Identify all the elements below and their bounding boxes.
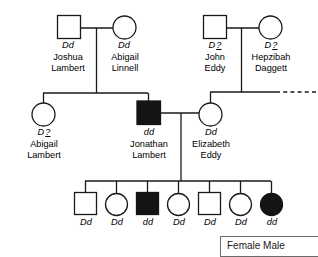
genotype-elizabeth-eddy: Dd <box>187 128 235 138</box>
genotype-hepzibah-daggett-unknown-mark: ? <box>271 40 277 50</box>
genotype-child-7: dd <box>257 218 287 228</box>
name-abigail-linnell-line2: Linnell <box>95 63 155 73</box>
symbol-abigail-lambert-female-unaffected <box>32 103 55 126</box>
symbol-child-2-female-unaffected <box>106 194 128 216</box>
symbol-john-eddy-male-unaffected <box>204 16 227 39</box>
genotype-child-5: Dd <box>195 218 225 228</box>
name-jonathan-lambert-line1: Jonathan <box>117 139 181 149</box>
legend-box: Female Male <box>220 236 318 257</box>
symbol-child-4-female-unaffected <box>168 194 190 216</box>
pedigree-chart: Dd Joshua Lambert Dd Abigail Linnell D? … <box>0 0 318 257</box>
name-elizabeth-eddy-line1: Elizabeth <box>181 139 241 149</box>
name-elizabeth-eddy-line2: Eddy <box>181 150 241 160</box>
symbol-elizabeth-eddy-female-unaffected <box>199 103 222 126</box>
genotype-jonathan-lambert: dd <box>125 128 173 138</box>
genotype-abigail-linnell: Dd <box>100 41 148 51</box>
symbol-hepzibah-daggett-female-unaffected <box>259 16 282 39</box>
symbol-abigail-linnell-female-unaffected <box>113 16 136 39</box>
genotype-abigail-lambert-unknown-mark: ? <box>44 127 50 137</box>
genotype-hepzibah-daggett: D? <box>247 41 295 51</box>
symbol-child-5-male-unaffected <box>199 193 221 215</box>
genotype-joshua-lambert: Dd <box>44 41 92 51</box>
symbol-jonathan-lambert-male-affected <box>137 101 161 125</box>
symbol-child-7-female-affected <box>261 194 283 216</box>
name-abigail-lambert-line1: Abigail <box>14 139 74 149</box>
genotype-child-2: Dd <box>102 218 132 228</box>
genotype-child-4: Dd <box>164 218 194 228</box>
name-joshua-lambert-line2: Lambert <box>38 63 98 73</box>
symbol-child-6-female-unaffected <box>230 194 252 216</box>
genotype-child-3: dd <box>133 218 163 228</box>
genotype-john-eddy-unknown-mark: ? <box>215 40 221 50</box>
genotype-child-6: Dd <box>226 218 256 228</box>
name-joshua-lambert-line1: Joshua <box>38 52 98 62</box>
sibship-eddy <box>210 92 318 103</box>
name-john-eddy-line2: Eddy <box>185 63 245 73</box>
name-john-eddy-line1: John <box>185 52 245 62</box>
genotype-john-eddy: D? <box>191 41 239 51</box>
name-abigail-lambert-line2: Lambert <box>14 150 74 160</box>
symbol-joshua-lambert-male-unaffected <box>58 16 81 39</box>
sibship-lambert <box>43 93 149 103</box>
name-hepzibah-daggett-line2: Daggett <box>238 63 304 73</box>
legend-label: Female Male <box>227 240 285 251</box>
symbol-child-3-male-affected <box>137 193 159 215</box>
name-hepzibah-daggett-line1: Hepzibah <box>238 52 304 62</box>
genotype-abigail-lambert: D? <box>20 128 68 138</box>
sibship-generation-3 <box>85 181 272 194</box>
name-abigail-linnell-line1: Abigail <box>95 52 155 62</box>
genotype-child-1: Dd <box>71 218 101 228</box>
name-jonathan-lambert-line2: Lambert <box>117 150 181 160</box>
symbol-child-1-male-unaffected <box>75 193 97 215</box>
